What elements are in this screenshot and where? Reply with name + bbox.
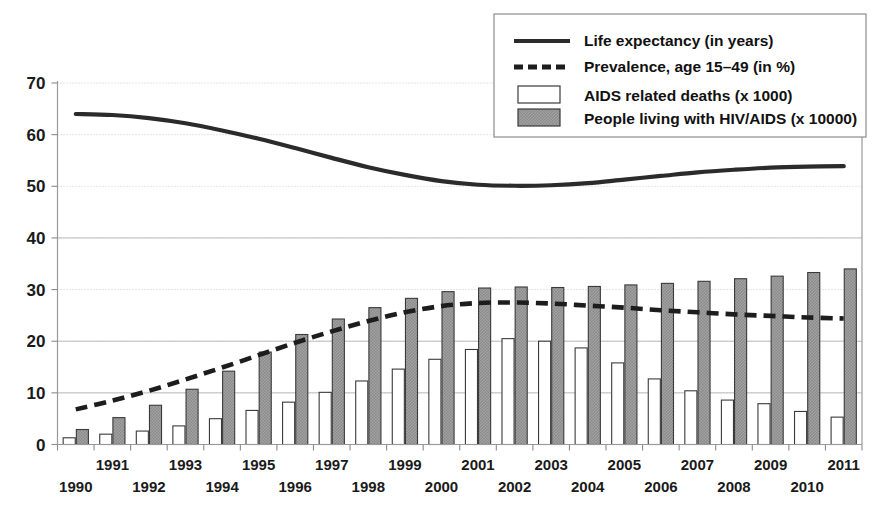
bar-aids-deaths-1992 <box>136 431 148 444</box>
bar-aids-deaths-2010 <box>795 411 807 444</box>
bar-people-living-hiv-2007 <box>698 281 710 444</box>
bar-aids-deaths-2008 <box>721 400 733 444</box>
bar-aids-deaths-1999 <box>392 369 404 444</box>
y-axis-label-30: 30 <box>27 281 46 300</box>
y-axis-label-50: 50 <box>27 177 46 196</box>
legend-label-prevalence: Prevalence, age 15–49 (in %) <box>584 58 795 75</box>
line-series-group <box>76 114 844 409</box>
x-axis-label-2009: 2009 <box>754 456 787 473</box>
x-axis-label-2001: 2001 <box>461 456 494 473</box>
x-axis-label-2005: 2005 <box>608 456 641 473</box>
bar-people-living-hiv-2011 <box>844 269 856 445</box>
x-axis-label-2007: 2007 <box>681 456 714 473</box>
bar-aids-deaths-1996 <box>283 402 295 444</box>
bar-people-living-hiv-2006 <box>661 283 673 444</box>
legend-swatch-gray <box>518 109 560 126</box>
bar-people-living-hiv-1994 <box>223 371 235 444</box>
bar-aids-deaths-1990 <box>63 438 75 445</box>
bar-people-living-hiv-1990 <box>76 430 88 445</box>
x-axis-tick-labels: 1990199119921993199419951996199719981999… <box>59 456 860 495</box>
y-axis-label-20: 20 <box>27 332 46 351</box>
bar-aids-deaths-2004 <box>575 348 587 445</box>
y-axis-label-60: 60 <box>27 126 46 145</box>
x-axis-label-1997: 1997 <box>315 456 348 473</box>
bar-people-living-hiv-2010 <box>808 273 820 445</box>
bar-people-living-hiv-1993 <box>186 389 198 444</box>
bar-aids-deaths-2001 <box>465 349 477 444</box>
bar-aids-deaths-2002 <box>502 339 514 445</box>
x-axis-label-2006: 2006 <box>644 478 677 495</box>
bar-people-living-hiv-1999 <box>405 298 417 444</box>
x-axis-label-2011: 2011 <box>827 456 860 473</box>
x-axis-label-1991: 1991 <box>96 456 129 473</box>
bar-aids-deaths-2011 <box>831 417 843 444</box>
bar-aids-deaths-2007 <box>685 391 697 445</box>
bar-people-living-hiv-1992 <box>149 405 161 444</box>
legend-swatch-white <box>518 86 560 103</box>
bar-aids-deaths-1995 <box>246 410 258 444</box>
bar-aids-deaths-2009 <box>758 404 770 445</box>
legend-label-aids-related-deaths: AIDS related deaths (x 1000) <box>584 87 792 104</box>
bar-aids-deaths-1991 <box>100 434 112 444</box>
bar-aids-deaths-2003 <box>539 341 551 444</box>
x-axis-label-1990: 1990 <box>59 478 92 495</box>
bar-people-living-hiv-2003 <box>552 288 564 445</box>
y-axis-tick-labels: 010203040506070 <box>27 74 46 455</box>
bar-aids-deaths-2000 <box>429 359 441 444</box>
x-axis-label-1994: 1994 <box>205 478 239 495</box>
bar-people-living-hiv-1995 <box>259 352 271 444</box>
bar-people-living-hiv-1998 <box>369 308 381 445</box>
bar-people-living-hiv-2000 <box>442 292 454 445</box>
bar-aids-deaths-1993 <box>173 426 185 445</box>
bar-series-group <box>63 269 856 445</box>
x-axis-label-1995: 1995 <box>242 456 275 473</box>
x-axis-label-1993: 1993 <box>169 456 202 473</box>
y-axis-label-0: 0 <box>36 436 45 455</box>
bar-aids-deaths-1997 <box>319 392 331 444</box>
x-axis-label-2002: 2002 <box>498 478 531 495</box>
bar-aids-deaths-2005 <box>612 363 624 445</box>
x-axis-label-2003: 2003 <box>535 456 568 473</box>
x-axis-label-2000: 2000 <box>425 478 458 495</box>
x-axis-label-2008: 2008 <box>717 478 750 495</box>
bar-people-living-hiv-2004 <box>588 286 600 444</box>
hiv-aids-chart: 010203040506070 199019911992199319941995… <box>0 0 880 513</box>
y-axis-label-10: 10 <box>27 384 46 403</box>
bar-people-living-hiv-1991 <box>113 418 125 445</box>
y-axis-label-40: 40 <box>27 229 46 248</box>
legend-label-people-living-with-hiv: People living with HIV/AIDS (x 10000) <box>584 110 857 127</box>
bar-aids-deaths-1994 <box>209 419 221 445</box>
bar-people-living-hiv-2001 <box>479 288 491 444</box>
x-axis-label-2010: 2010 <box>790 478 823 495</box>
bar-people-living-hiv-2002 <box>515 287 527 445</box>
chart-legend: Life expectancy (in years)Prevalence, ag… <box>494 14 866 137</box>
y-axis-label-70: 70 <box>27 74 46 93</box>
x-axis-label-1998: 1998 <box>352 478 385 495</box>
x-axis-label-2004: 2004 <box>571 478 605 495</box>
x-axis-label-1996: 1996 <box>279 478 312 495</box>
bar-aids-deaths-1998 <box>356 381 368 445</box>
chart-canvas: 010203040506070 199019911992199319941995… <box>0 0 880 513</box>
bar-aids-deaths-2006 <box>648 379 660 445</box>
x-axis-label-1999: 1999 <box>388 456 421 473</box>
bar-people-living-hiv-1997 <box>332 319 344 444</box>
bar-people-living-hiv-2009 <box>771 276 783 444</box>
legend-label-life-expectancy: Life expectancy (in years) <box>584 32 774 49</box>
x-axis-label-1992: 1992 <box>132 478 165 495</box>
bar-people-living-hiv-2008 <box>735 279 747 445</box>
bar-people-living-hiv-1996 <box>296 335 308 445</box>
